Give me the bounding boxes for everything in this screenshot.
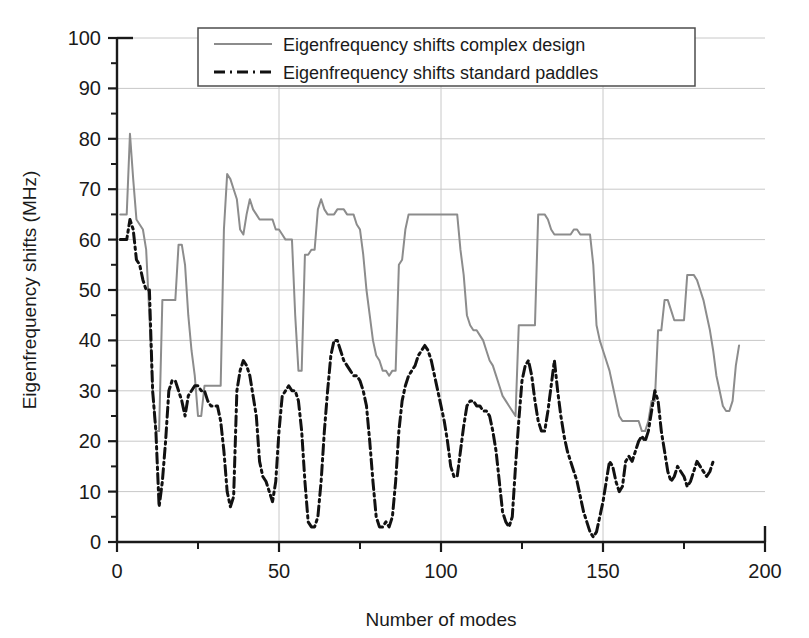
x-tick-label: 100 (424, 560, 457, 582)
y-tick-label: 100 (68, 27, 101, 49)
y-tick-label: 0 (90, 531, 101, 553)
x-tick-label: 0 (111, 560, 122, 582)
y-tick-label: 60 (79, 229, 101, 251)
y-axis-title: Eigenfrequency shifts (MHz) (19, 171, 40, 410)
y-tick-label: 70 (79, 178, 101, 200)
y-tick-label: 90 (79, 77, 101, 99)
y-tick-label: 50 (79, 279, 101, 301)
eigenfrequency-shifts-chart: 0102030405060708090100050100150200 Eigen… (0, 0, 809, 638)
y-tick-label: 80 (79, 128, 101, 150)
y-tick-label: 40 (79, 329, 101, 351)
x-tick-label: 50 (268, 560, 290, 582)
y-tick-label: 30 (79, 380, 101, 402)
x-axis-title: Number of modes (365, 609, 516, 630)
chart-legend: Eigenfrequency shifts complex design Eig… (198, 28, 695, 86)
y-tick-label: 10 (79, 481, 101, 503)
x-tick-label: 150 (586, 560, 619, 582)
y-tick-label: 20 (79, 430, 101, 452)
legend-label-complex-design: Eigenfrequency shifts complex design (283, 35, 585, 55)
legend-label-standard-paddles: Eigenfrequency shifts standard paddles (283, 63, 598, 83)
x-tick-label: 200 (748, 560, 781, 582)
chart-canvas: 0102030405060708090100050100150200 Eigen… (0, 0, 809, 638)
